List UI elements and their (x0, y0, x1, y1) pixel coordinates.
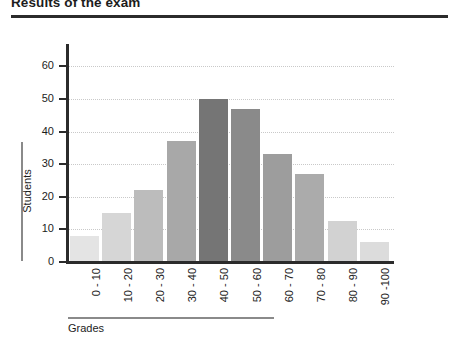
y-axis-tick-label: 0 (26, 255, 54, 267)
y-axis-tick-label-wrap: 50 (24, 99, 54, 100)
y-axis-tick-label-wrap: 60 (24, 66, 54, 67)
x-axis-line (66, 261, 394, 264)
y-axis-title: Students (21, 156, 33, 226)
y-axis-tick (59, 131, 68, 133)
gridline (69, 66, 394, 67)
x-axis-tick-label: 50 - 60 (251, 268, 263, 302)
bar (263, 154, 292, 262)
y-axis-tick (59, 261, 68, 263)
y-axis-tick-label-wrap: 10 (24, 229, 54, 230)
x-axis-tick-label: 80 - 90 (347, 268, 359, 302)
x-axis-title-divider (68, 317, 274, 319)
gridline (69, 99, 394, 100)
bar (328, 221, 357, 262)
y-axis-tick-label: 40 (26, 125, 54, 137)
bar (231, 109, 260, 262)
bar (295, 174, 324, 262)
chart-page: Results of the exam 0102030405060 0 - 10… (0, 0, 458, 348)
bar (102, 213, 131, 262)
y-axis-tick-label: 60 (26, 59, 54, 71)
x-axis-tick-label: 20 - 30 (154, 268, 166, 302)
y-axis-tick-label: 50 (26, 92, 54, 104)
bar (167, 141, 196, 262)
bar (70, 236, 99, 262)
x-axis-tick-label: 70 - 80 (315, 268, 327, 302)
x-axis-tick-label: 60 - 70 (283, 268, 295, 302)
x-axis-tick-label: 30 - 40 (186, 268, 198, 302)
y-axis-tick-label-wrap: 40 (24, 132, 54, 133)
y-axis-tick (59, 228, 68, 230)
x-axis-title: Grades (68, 322, 104, 334)
y-axis-tick (59, 98, 68, 100)
bar (134, 190, 163, 262)
bar (199, 99, 228, 262)
bar (360, 242, 389, 262)
plot-area: 0102030405060 0 - 1010 - 2020 - 3030 - 4… (0, 0, 458, 348)
x-axis-tick-label: 90 -100 (379, 268, 391, 305)
y-axis-tick (59, 163, 68, 165)
y-axis-line (66, 44, 69, 264)
x-axis-tick-label: 10 - 20 (122, 268, 134, 302)
x-axis-tick-label: 0 - 10 (90, 268, 102, 296)
y-axis-tick (59, 196, 68, 198)
y-axis-tick (59, 65, 68, 67)
x-axis-tick-label: 40 - 50 (218, 268, 230, 302)
y-axis-tick-label-wrap: 0 (24, 262, 54, 263)
